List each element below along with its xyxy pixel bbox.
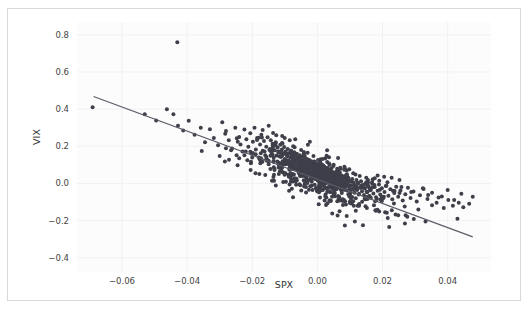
data-point: [451, 204, 455, 208]
data-point: [371, 191, 375, 195]
data-point: [255, 138, 259, 142]
data-point: [344, 202, 348, 206]
data-point: [270, 179, 274, 183]
data-point: [269, 138, 273, 142]
data-point: [377, 183, 381, 187]
data-point: [327, 155, 331, 159]
data-point: [257, 172, 261, 176]
data-point: [382, 175, 386, 179]
y-tick-label: −0.2: [48, 216, 69, 226]
data-point: [398, 191, 402, 195]
data-point: [300, 160, 304, 164]
data-point: [308, 160, 312, 164]
data-point: [430, 191, 434, 195]
data-point: [446, 188, 450, 192]
data-point: [329, 166, 333, 170]
data-point: [274, 184, 278, 188]
data-point: [307, 188, 311, 192]
data-point: [318, 196, 322, 200]
data-point: [353, 219, 357, 223]
data-point: [323, 172, 327, 176]
data-point: [403, 192, 407, 196]
data-point: [287, 189, 291, 193]
data-point: [272, 165, 276, 169]
data-point: [373, 176, 377, 180]
data-point: [370, 180, 374, 184]
data-point: [266, 135, 270, 139]
data-point: [409, 196, 413, 200]
data-point: [326, 177, 330, 181]
data-point: [378, 188, 382, 192]
data-point: [354, 173, 358, 177]
data-point: [358, 174, 362, 178]
data-point: [430, 203, 434, 207]
data-point: [298, 183, 302, 187]
data-point: [457, 201, 461, 205]
data-point: [227, 158, 231, 162]
data-point: [435, 201, 439, 205]
data-point: [258, 142, 262, 146]
y-tick-label: 0.0: [55, 178, 69, 188]
data-point: [336, 213, 340, 217]
y-tick-label: −0.4: [48, 253, 69, 263]
data-point: [242, 153, 246, 157]
data-point: [331, 172, 335, 176]
data-point: [280, 141, 284, 145]
data-point: [311, 154, 315, 158]
data-point: [244, 137, 248, 141]
data-point: [425, 197, 429, 201]
data-point: [299, 188, 303, 192]
data-point: [394, 185, 398, 189]
data-point: [277, 172, 281, 176]
data-point: [322, 176, 326, 180]
data-point: [237, 156, 241, 160]
data-point: [366, 178, 370, 182]
data-point: [203, 140, 207, 144]
data-point: [461, 205, 465, 209]
data-point: [324, 203, 328, 207]
data-point: [347, 177, 351, 181]
data-point: [274, 143, 278, 147]
data-point: [471, 195, 475, 199]
x-tick-label: −0.04: [174, 276, 200, 286]
data-point: [390, 176, 394, 180]
data-point: [328, 199, 332, 203]
data-point: [263, 173, 267, 177]
data-point: [356, 181, 360, 185]
data-point: [338, 176, 342, 180]
data-point: [409, 190, 413, 194]
data-point: [390, 208, 394, 212]
data-point: [304, 191, 308, 195]
data-point: [235, 136, 239, 140]
data-point: [293, 153, 297, 157]
data-point: [338, 209, 342, 213]
data-point: [251, 151, 255, 155]
data-point: [455, 217, 459, 221]
data-point: [290, 151, 294, 155]
x-axis-title: SPX: [275, 279, 294, 290]
data-point: [392, 201, 396, 205]
data-point: [199, 126, 203, 130]
data-point: [291, 157, 295, 161]
data-point: [382, 190, 386, 194]
data-point: [260, 135, 264, 139]
data-point: [254, 171, 258, 175]
data-point: [223, 160, 227, 164]
data-point: [393, 189, 397, 193]
data-point: [337, 195, 341, 199]
y-tick-label: 0.4: [55, 104, 69, 114]
data-point: [396, 195, 400, 199]
data-point: [418, 193, 422, 197]
data-point: [274, 133, 278, 137]
data-point: [295, 178, 299, 182]
x-tick-label: −0.02: [239, 276, 265, 286]
data-point: [270, 148, 274, 152]
x-tick-label: −0.06: [109, 276, 135, 286]
data-point: [385, 180, 389, 184]
data-point: [386, 194, 390, 198]
data-point: [390, 197, 394, 201]
data-point: [338, 171, 342, 175]
data-point: [263, 149, 267, 153]
data-point: [365, 190, 369, 194]
data-point: [345, 214, 349, 218]
